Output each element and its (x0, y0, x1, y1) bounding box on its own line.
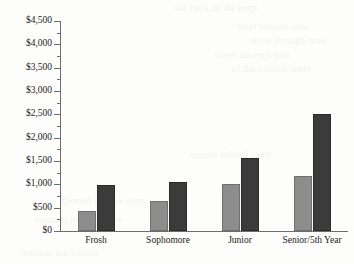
y-axis-tick-label: $3,500 (2, 63, 52, 73)
y-axis-tick-label: $1,500 (2, 156, 52, 166)
y-axis-tick-major (54, 231, 61, 232)
x-axis-line (60, 231, 348, 232)
bar-group (222, 21, 259, 231)
bar (97, 185, 115, 231)
bar (294, 176, 312, 231)
x-axis-tick-label: Frosh (60, 236, 132, 246)
bar-group (78, 21, 115, 231)
bar (313, 114, 331, 231)
y-axis-tick-label: $500 (2, 203, 52, 213)
y-axis-tick-labels: $0$500$1,000$1,500$2,000$2,500$3,000$3,5… (0, 0, 52, 264)
y-axis-tick-label: $0 (2, 226, 52, 236)
bar-chart-figure: the back of the page faint reverse side … (0, 0, 354, 264)
x-axis-tick-label: Sophomore (132, 236, 204, 246)
bar (150, 201, 168, 231)
y-axis-tick-label: $2,500 (2, 109, 52, 119)
x-axis-tick-label: Senior/5th Year (276, 236, 348, 246)
y-axis-tick-label: $3,000 (2, 86, 52, 96)
y-axis-tick-label: $4,000 (2, 39, 52, 49)
bleed-through-text: the back of the page (175, 3, 258, 13)
y-axis-tick-label: $1,000 (2, 179, 52, 189)
bar-group (294, 21, 331, 231)
bar (241, 158, 259, 231)
y-axis-tick-label: $2,000 (2, 133, 52, 143)
bar (169, 182, 187, 231)
bar (222, 184, 240, 231)
bars-layer (60, 21, 348, 231)
bar-group (150, 21, 187, 231)
y-axis-tick-label: $4,500 (2, 16, 52, 26)
bar (78, 211, 96, 231)
x-axis-tick-label: Junior (204, 236, 276, 246)
